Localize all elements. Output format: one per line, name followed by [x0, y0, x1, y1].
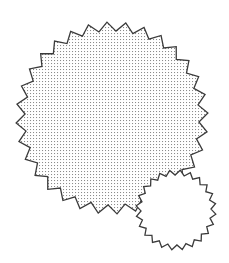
- starburst-figure: [0, 0, 229, 263]
- figure-canvas: [0, 0, 229, 263]
